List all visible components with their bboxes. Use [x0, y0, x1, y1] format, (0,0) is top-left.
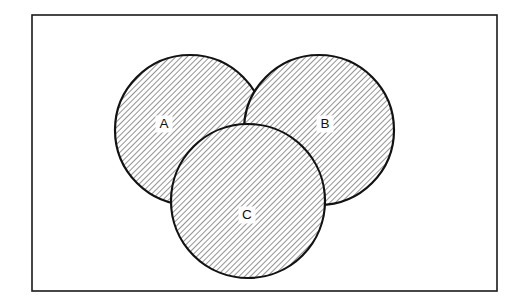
set-label-c: C: [239, 207, 256, 224]
venn-circle-c: [171, 124, 325, 278]
set-label-b-text: B: [320, 116, 329, 131]
set-label-c-text: C: [242, 207, 252, 222]
set-label-a-text: A: [159, 116, 168, 131]
set-label-a: A: [156, 116, 173, 133]
set-label-b: B: [317, 116, 334, 133]
venn-diagram-canvas: A B C: [0, 0, 522, 308]
venn-figure-root: A B C: [0, 0, 522, 308]
